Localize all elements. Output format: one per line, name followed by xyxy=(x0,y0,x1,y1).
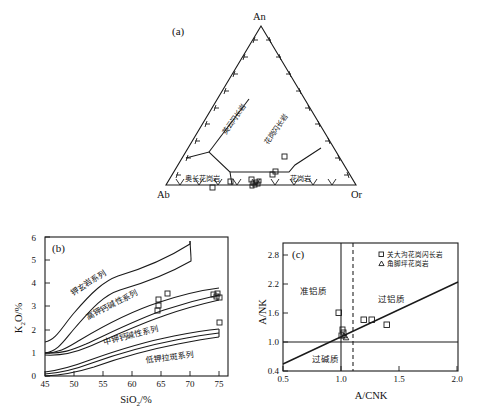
panel-b-ytick-2: 2 xyxy=(32,325,37,335)
ternary-field-granodiorite: 花岗闪长岩 xyxy=(262,112,289,146)
panel-c-xtick-0: 0.5 xyxy=(277,374,289,384)
panel-b-xtick-0: 45 xyxy=(41,379,51,389)
panel-a: (a) xyxy=(157,11,363,200)
panel-b-xtick-4: 65 xyxy=(157,379,167,389)
panel-b-ytick-1: 1 xyxy=(32,348,37,358)
panel-c-yticks xyxy=(283,255,288,371)
data-point xyxy=(282,154,287,159)
panel-b-xlabel: SiO2/% xyxy=(120,394,152,408)
data-point xyxy=(361,317,367,323)
panel-b: (b) 0 1 2 3 4 5 6 45 50 55 60 65 70 75 K… xyxy=(13,233,228,408)
panel-c-tag: (c) xyxy=(292,248,305,261)
panel-c-xtick-2: 1.5 xyxy=(393,374,405,384)
legend-square-marker xyxy=(379,252,384,257)
panel-b-label-low-k: 低钾拉斑系列 xyxy=(145,349,194,365)
data-point xyxy=(156,297,161,302)
ternary-field-boundaries xyxy=(186,99,321,185)
panel-b-xtick-6: 75 xyxy=(215,379,225,389)
legend-label-granodiorite: 关大沟花岗闪长岩 xyxy=(387,250,443,259)
panel-a-tag: (a) xyxy=(172,25,185,38)
panel-c-field-peralkaline: 过碱质 xyxy=(312,354,339,364)
data-point xyxy=(156,303,161,308)
ternary-field-granite: 花岗岩 xyxy=(290,174,311,183)
panel-c-xtick-1: 1.0 xyxy=(335,374,347,384)
panel-b-label-shoshonite: 钾玄岩系列 xyxy=(69,268,108,298)
panel-b-tag: (b) xyxy=(52,242,65,255)
panel-b-ytick-4: 4 xyxy=(32,278,37,288)
panel-b-xtick-1: 50 xyxy=(70,379,80,389)
figure-svg: (a) xyxy=(0,0,492,413)
panel-c-xticks xyxy=(283,366,457,371)
panel-b-label-medium-k: 中钾钙碱性系列 xyxy=(102,324,159,347)
panel-b-ytick-6: 6 xyxy=(32,233,37,243)
ternary-field-trondhjemite: 奥长花岗岩 xyxy=(185,174,220,183)
ternary-apex-an: An xyxy=(253,11,267,22)
data-point xyxy=(165,291,170,296)
panel-b-xlabel-tail: /% xyxy=(140,394,152,405)
panel-c-ytick-3: 2.2 xyxy=(268,279,279,289)
svg-text:K2O/%: K2O/% xyxy=(13,303,27,334)
data-point xyxy=(270,172,275,177)
legend-triangle-marker xyxy=(379,261,384,266)
panel-c-ytick-4: 2.8 xyxy=(268,250,280,260)
panel-c-data-points xyxy=(336,310,390,340)
panel-b-xlabel-main: SiO xyxy=(120,394,137,405)
ternary-outline xyxy=(166,26,356,185)
panel-c: (c) 0.4 1.0 1.6 2.2 2.8 0.5 1.0 1.5 2.0 … xyxy=(257,243,463,401)
panel-c-field-metaluminous: 准铝质 xyxy=(300,286,327,296)
data-point xyxy=(210,185,215,190)
panel-b-ylabel: K2O/% xyxy=(13,303,27,334)
ternary-apex-ab: Ab xyxy=(157,189,170,200)
data-point xyxy=(384,322,390,328)
figure-root: (a) xyxy=(0,0,492,413)
panel-b-xticks xyxy=(45,371,219,376)
panel-c-xtick-3: 2.0 xyxy=(451,374,463,384)
panel-c-field-peraluminous: 过铝质 xyxy=(378,294,405,304)
ternary-apex-or: Or xyxy=(351,189,363,200)
panel-b-xtick-2: 55 xyxy=(99,379,109,389)
legend-label-granite: 角脚坪花岗岩 xyxy=(387,259,429,268)
panel-b-ytick-3: 3 xyxy=(32,301,37,311)
panel-c-ylabel: A/NK xyxy=(257,299,268,325)
panel-b-frame xyxy=(45,237,228,376)
data-point xyxy=(217,320,222,325)
ternary-field-tonalite: 英云闪长岩 xyxy=(220,102,247,136)
panel-b-ytick-5: 5 xyxy=(32,255,37,265)
panel-c-ytick-2: 1.6 xyxy=(268,308,280,318)
panel-b-xtick-3: 60 xyxy=(128,379,138,389)
panel-b-xtick-5: 70 xyxy=(186,379,196,389)
panel-c-xlabel: A/CNK xyxy=(355,390,388,401)
panel-b-ylabel-tail: O/% xyxy=(13,303,24,323)
panel-c-ytick-1: 1.0 xyxy=(268,337,280,347)
panel-c-legend: 关大沟花岗闪长岩 角脚坪花岗岩 xyxy=(379,250,443,268)
panel-b-ytick-0: 0 xyxy=(32,371,37,381)
